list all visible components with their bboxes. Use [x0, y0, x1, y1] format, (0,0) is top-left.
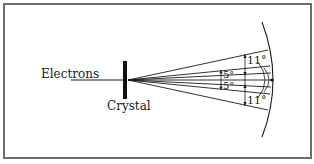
crystal-slab: [123, 61, 127, 99]
electron-diffraction-diagram: Electrons Crystal 11° 11° 5° 5°: [0, 0, 314, 164]
crystal-label: Crystal: [107, 99, 151, 113]
center-spot: [270, 78, 273, 81]
outer-angle-bottom-label: 11°: [247, 94, 267, 107]
inner-angle-bottom-label: 5°: [223, 80, 234, 91]
outer-angle-top-label: 11°: [247, 54, 267, 67]
electrons-label: Electrons: [41, 67, 99, 81]
inner-angle-top-label: 5°: [223, 69, 234, 80]
